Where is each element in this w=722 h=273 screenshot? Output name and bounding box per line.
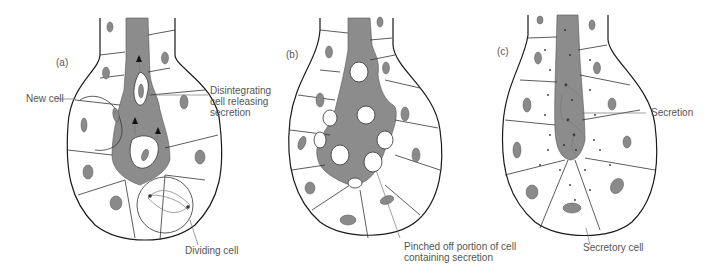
panel-a-acinus xyxy=(67,18,222,240)
secretion-diagram: .ol { fill: #fff; stroke: #1a1a1a; strok… xyxy=(0,0,722,273)
panel-b-acinus xyxy=(289,17,442,238)
label-dividing-cell: Dividing cell xyxy=(185,245,238,256)
diagram-artwork: .ol { fill: #fff; stroke: #1a1a1a; strok… xyxy=(0,0,722,273)
label-secretory-cell: Secretory cell xyxy=(583,242,644,253)
panel-a-tag: (a) xyxy=(56,57,68,68)
label-line: containing secretion xyxy=(404,252,516,263)
panel-b-tag: (b) xyxy=(286,49,298,60)
panel-c-tag: (c) xyxy=(497,46,509,57)
label-line: Disintegrating xyxy=(210,85,271,96)
label-new-cell: New cell xyxy=(26,93,64,104)
label-line: Pinched off portion of cell xyxy=(404,241,516,252)
label-pinched-off-portion: Pinched off portion of cell containing s… xyxy=(404,241,516,263)
label-secretion: Secretion xyxy=(651,107,693,118)
label-disintegrating-cell: Disintegrating cell releasing secretion xyxy=(210,85,271,118)
label-line: secretion xyxy=(210,107,271,118)
panel-c-acinus xyxy=(502,15,656,236)
label-line: cell releasing xyxy=(210,96,271,107)
